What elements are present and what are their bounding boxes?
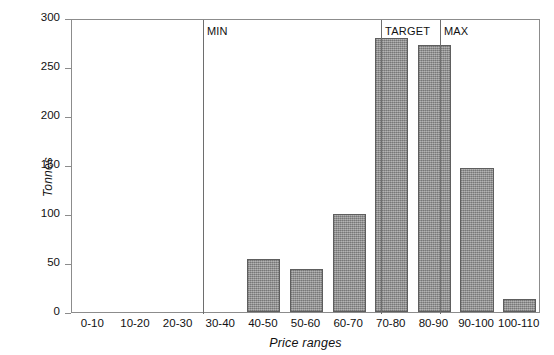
x-tick-label-50-60: 50-60 <box>291 317 320 329</box>
x-axis-title: Price ranges <box>71 336 540 350</box>
y-tick-label: 300 <box>41 11 60 23</box>
reference-label-max: MAX <box>440 25 468 37</box>
y-tick-label: 100 <box>41 207 60 219</box>
y-tick-label: 50 <box>47 256 60 268</box>
y-tick-label: 0 <box>54 305 60 317</box>
bar-80-90 <box>418 45 451 312</box>
y-tick-label: 250 <box>41 60 60 72</box>
y-tick-mark <box>65 313 71 314</box>
reference-line-target <box>381 20 382 314</box>
histogram-chart: Tonnes 050100150200250300 MINTARGETMAX 0… <box>0 0 554 355</box>
x-tick-label-30-40: 30-40 <box>206 317 235 329</box>
bar-40-50 <box>247 259 280 312</box>
x-tick-label-100-110: 100-110 <box>498 317 539 329</box>
x-tick-label-0-10: 0-10 <box>81 317 104 329</box>
x-tick-label-90-100: 90-100 <box>458 317 494 329</box>
bar-100-110 <box>503 299 536 312</box>
x-tick-label-70-80: 70-80 <box>376 317 405 329</box>
bar-90-100 <box>460 168 493 312</box>
plot-area: MINTARGETMAX <box>71 19 540 313</box>
bars-layer <box>72 20 539 312</box>
x-tick-label-40-50: 40-50 <box>248 317 277 329</box>
y-tick-label: 150 <box>41 158 60 170</box>
reference-line-max <box>440 20 441 314</box>
x-tick-label-80-90: 80-90 <box>419 317 448 329</box>
y-tick-label: 200 <box>41 109 60 121</box>
y-axis-title: Tonnes <box>41 117 55 237</box>
x-tick-label-10-20: 10-20 <box>120 317 149 329</box>
bar-50-60 <box>290 269 323 312</box>
bar-60-70 <box>333 214 366 312</box>
x-tick-label-20-30: 20-30 <box>163 317 192 329</box>
x-axis-ticks: 0-1010-2020-3030-4040-5050-6060-7070-808… <box>71 317 540 335</box>
reference-label-min: MIN <box>203 25 228 37</box>
reference-label-target: TARGET <box>381 25 430 37</box>
reference-line-min <box>203 20 204 314</box>
x-tick-label-60-70: 60-70 <box>333 317 362 329</box>
